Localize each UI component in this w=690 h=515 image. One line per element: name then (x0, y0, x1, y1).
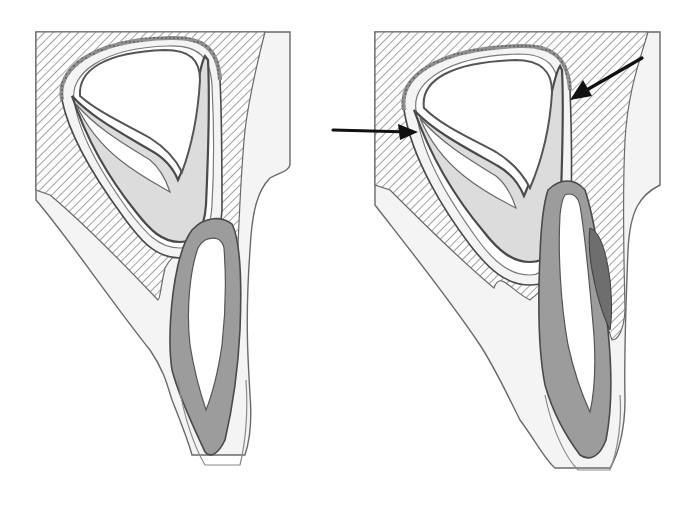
dental-development-figure (0, 0, 690, 515)
panel-left (36, 32, 290, 465)
figure-canvas (0, 0, 690, 515)
panel-right (333, 32, 660, 470)
arrow-left-shaft (333, 130, 410, 132)
